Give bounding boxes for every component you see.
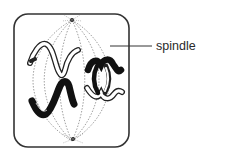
chromosome-left bbox=[30, 44, 78, 115]
spindle-label: spindle bbox=[156, 39, 196, 53]
cell-membrane bbox=[14, 14, 129, 147]
spindle-fibres bbox=[33, 20, 110, 141]
mitosis-diagram: spindle bbox=[0, 0, 226, 157]
centriole-top bbox=[62, 15, 82, 22]
chromosome-right bbox=[87, 60, 122, 99]
